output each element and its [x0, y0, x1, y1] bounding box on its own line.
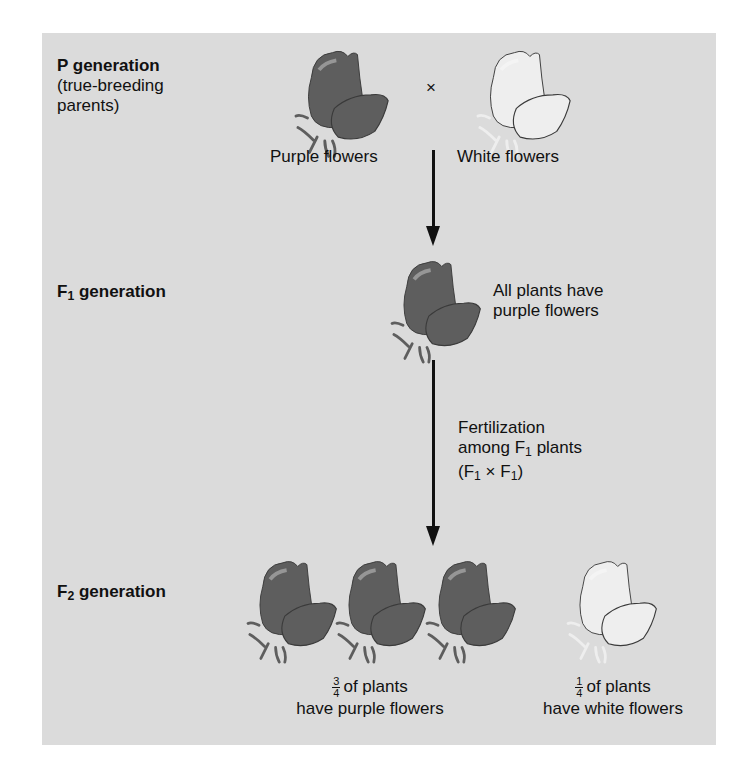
fertilization-line-2-prefix: among F — [458, 438, 525, 457]
fertilization-line-3-mid: × F — [481, 462, 511, 481]
fertilization-line-3-open: (F — [458, 462, 474, 481]
fertilization-line-2-suffix: plants — [532, 438, 582, 457]
p-generation-subtitle-2: parents) — [57, 96, 119, 115]
p-generation-title: P generation — [57, 56, 160, 75]
f2-purple-flower-icon-3 — [427, 558, 519, 666]
f1-description-line-2: purple flowers — [493, 301, 599, 320]
arrow-f1-to-f2-head — [426, 526, 440, 546]
f2-white-caption: 14of plants have white flowers — [518, 676, 708, 719]
fertilization-line-2-sub: 1 — [525, 445, 532, 459]
f2-purple-flower-icon-1 — [248, 558, 340, 666]
white-caption-line-1: of plants — [586, 677, 650, 696]
white-caption-line-2: have white flowers — [543, 699, 683, 718]
arrow-p-to-f1-line — [432, 150, 435, 230]
one-quarter-fraction: 14 — [575, 676, 583, 699]
p-generation-label: P generation (true-breeding parents) — [57, 56, 164, 116]
f1-purple-flower-icon — [392, 258, 484, 366]
f1-generation-label: F1 generation — [57, 282, 166, 306]
fertilization-line-1: Fertilization — [458, 418, 545, 437]
f2-white-flower-icon — [568, 558, 660, 666]
white-parent-label: White flowers — [457, 147, 559, 167]
f1-description: All plants have purple flowers — [493, 281, 604, 321]
three-quarters-fraction: 34 — [332, 676, 340, 699]
fertilization-caption: Fertilization among F1 plants (F1 × F1) — [458, 418, 582, 486]
purple-parent-label: Purple flowers — [270, 147, 378, 167]
fraction-denominator: 4 — [332, 688, 340, 699]
purple-caption-line-1: of plants — [343, 677, 407, 696]
white-flower-icon — [478, 48, 574, 160]
f1-label-suffix: generation — [74, 282, 166, 301]
arrow-f1-to-f2-line — [432, 360, 435, 530]
f2-label-prefix: F — [57, 582, 67, 601]
arrow-p-to-f1-head — [426, 226, 440, 246]
purple-caption-line-2: have purple flowers — [296, 699, 443, 718]
cross-symbol: × — [426, 78, 436, 98]
f1-description-line-1: All plants have — [493, 281, 604, 300]
p-generation-subtitle-1: (true-breeding — [57, 76, 164, 95]
fertilization-line-3-sub-1: 1 — [474, 469, 481, 483]
f2-generation-label: F2 generation — [57, 582, 166, 606]
fraction-denominator: 4 — [575, 688, 583, 699]
f1-label-prefix: F — [57, 282, 67, 301]
f2-purple-flower-icon-2 — [337, 558, 429, 666]
f2-label-suffix: generation — [74, 582, 166, 601]
purple-flower-icon — [296, 48, 392, 160]
f2-purple-caption: 34of plants have purple flowers — [270, 676, 470, 719]
fertilization-line-3-close: ) — [517, 462, 523, 481]
